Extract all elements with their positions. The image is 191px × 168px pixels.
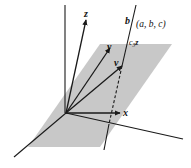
y-label: y bbox=[106, 41, 112, 52]
v-label: v bbox=[114, 57, 119, 68]
point-label: (a, b, c) bbox=[136, 19, 166, 30]
x-label: x bbox=[122, 107, 128, 118]
z-label: z bbox=[83, 8, 88, 19]
vector-diagram: z y v x b (a, b, c) c3z bbox=[0, 0, 191, 168]
b-label: b bbox=[125, 15, 130, 26]
c3z-label: c3z bbox=[129, 38, 139, 48]
